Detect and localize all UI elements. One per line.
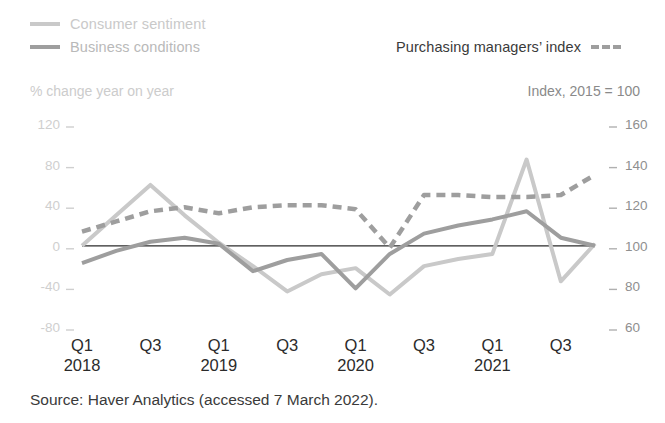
legend-item-purchasing-managers-index: Purchasing managers’ index bbox=[396, 39, 621, 55]
series-line-1 bbox=[82, 160, 595, 295]
x-axis-quarter-label: Q1 bbox=[337, 336, 374, 355]
y-axis-right-tick-label: 140 bbox=[625, 158, 648, 173]
x-axis-quarter-label: Q3 bbox=[139, 336, 161, 355]
x-axis-labels: Q12018Q3Q12019Q3Q12020Q3Q12021Q3 bbox=[0, 336, 665, 382]
x-axis-quarter-label: Q3 bbox=[276, 336, 298, 355]
x-axis-year-label: 2018 bbox=[64, 355, 101, 376]
left-axis-caption: % change year on year bbox=[30, 83, 174, 99]
chart-figure: Consumer sentiment Business conditions P… bbox=[0, 0, 665, 423]
y-axis-right-tick-label: 100 bbox=[625, 239, 648, 254]
legend-swatch-business-conditions bbox=[30, 45, 60, 49]
y-axis-left-tick-label: 0 bbox=[52, 239, 60, 254]
x-axis-tick-q1-2019: Q12019 bbox=[200, 336, 237, 376]
x-axis-tick-q1-2018: Q12018 bbox=[64, 336, 101, 376]
x-axis-year-label: 2021 bbox=[474, 355, 511, 376]
x-axis-quarter-label: Q3 bbox=[413, 336, 435, 355]
y-axis-right-tick-label: 80 bbox=[625, 279, 640, 294]
legend-label-business-conditions: Business conditions bbox=[70, 39, 200, 55]
x-axis-tick-q3: Q3 bbox=[139, 336, 161, 355]
legend-item-consumer-sentiment: Consumer sentiment bbox=[30, 16, 206, 32]
y-axis-right-tick-label: 160 bbox=[625, 117, 648, 132]
plot-area: 12080400-40-801601401201008060 bbox=[0, 110, 665, 340]
y-axis-left-tick-label: 80 bbox=[45, 158, 60, 173]
x-axis-quarter-label: Q1 bbox=[200, 336, 237, 355]
y-axis-right-tick-label: 60 bbox=[625, 320, 640, 335]
x-axis-tick-q3: Q3 bbox=[550, 336, 572, 355]
y-axis-left-tick-label: -80 bbox=[40, 320, 60, 335]
y-axis-left-tick-label: 40 bbox=[45, 198, 60, 213]
y-axis-left-tick-label: -40 bbox=[40, 279, 60, 294]
legend-swatch-purchasing-managers-index bbox=[591, 45, 621, 49]
chart-svg: 12080400-40-801601401201008060 bbox=[0, 110, 665, 340]
legend-swatch-consumer-sentiment bbox=[30, 22, 60, 26]
x-axis-tick-q3: Q3 bbox=[276, 336, 298, 355]
legend-label-consumer-sentiment: Consumer sentiment bbox=[70, 16, 206, 32]
y-axis-left-tick-label: 120 bbox=[37, 117, 60, 132]
x-axis-quarter-label: Q1 bbox=[474, 336, 511, 355]
x-axis-year-label: 2019 bbox=[200, 355, 237, 376]
x-axis-tick-q1-2020: Q12020 bbox=[337, 336, 374, 376]
source-note: Source: Haver Analytics (accessed 7 Marc… bbox=[30, 391, 378, 409]
legend-item-business-conditions: Business conditions bbox=[30, 39, 200, 55]
x-axis-tick-q3: Q3 bbox=[413, 336, 435, 355]
right-axis-caption: Index, 2015 = 100 bbox=[528, 83, 641, 99]
x-axis-tick-q1-2021: Q12021 bbox=[474, 336, 511, 376]
legend-label-purchasing-managers-index: Purchasing managers’ index bbox=[396, 39, 581, 55]
series-line-2 bbox=[82, 211, 595, 288]
y-axis-right-tick-label: 120 bbox=[625, 198, 648, 213]
x-axis-year-label: 2020 bbox=[337, 355, 374, 376]
x-axis-quarter-label: Q1 bbox=[64, 336, 101, 355]
x-axis-quarter-label: Q3 bbox=[550, 336, 572, 355]
